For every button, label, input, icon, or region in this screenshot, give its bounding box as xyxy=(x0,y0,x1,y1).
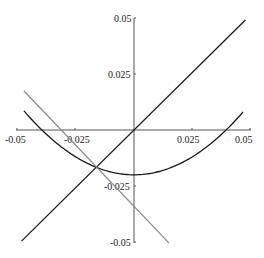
x-tick-label: 0.05 xyxy=(235,134,253,145)
chart-plot: -0.05 -0.025 0.025 0.05 0.05 0.025 -0.02… xyxy=(0,0,264,258)
series-layer xyxy=(22,20,246,243)
y-tick-label: 0.05 xyxy=(114,13,132,24)
x-tick-label: -0.025 xyxy=(64,134,90,145)
series-gray-line xyxy=(24,91,169,243)
y-tick-label: -0.05 xyxy=(110,237,131,248)
y-tick-label: 0.025 xyxy=(108,69,131,80)
x-tick-label: -0.05 xyxy=(5,134,26,145)
x-tick-label: 0.025 xyxy=(177,134,200,145)
series-line-y-x xyxy=(22,20,246,241)
y-tick-label: -0.025 xyxy=(104,181,130,192)
